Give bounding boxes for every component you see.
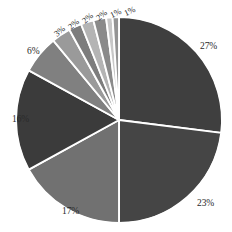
pie-slice-label: 23% <box>197 199 214 209</box>
pie-slice[interactable] <box>119 17 222 133</box>
pie-slice-label: 17% <box>62 207 79 217</box>
pie-slice-group <box>16 17 222 223</box>
pie-chart: 27%23%17%16%6%3%2%2%2%1%1% <box>0 0 232 232</box>
pie-slice-label: 6% <box>27 47 39 57</box>
pie-slice-label: 27% <box>200 42 217 52</box>
pie-slice-label: 16% <box>12 115 29 125</box>
